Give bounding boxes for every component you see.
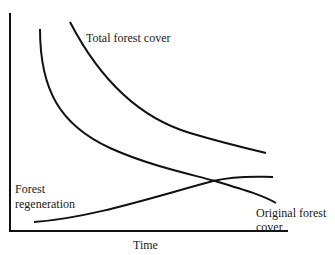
x-axis-label: Time bbox=[133, 238, 158, 252]
label-original-forest-cover-2: cover bbox=[256, 220, 283, 234]
label-forest-regeneration-2: regeneration bbox=[15, 197, 75, 211]
label-total-forest-cover: Total forest cover bbox=[86, 31, 170, 45]
label-forest-regeneration-1: Forest bbox=[15, 182, 45, 196]
label-original-forest-cover-1: Original forest bbox=[256, 206, 326, 220]
